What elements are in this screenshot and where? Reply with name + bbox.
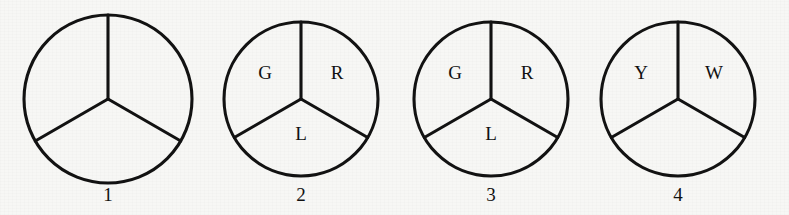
sector-label-upper-right-4: W <box>705 62 723 83</box>
circle-caption-3: 3 <box>486 184 496 205</box>
circle-group-1: 1 <box>24 15 192 205</box>
sector-label-bottom-3: L <box>485 123 497 144</box>
circle-group-2: G R L 2 <box>224 22 378 205</box>
circle-group-3: G R L 3 <box>414 22 568 205</box>
sector-label-upper-left-3: G <box>448 62 462 83</box>
spoke-down-right-4 <box>678 99 745 138</box>
figure-container: 1 G R L 2 G R L 3 <box>0 0 789 215</box>
circle-group-4: Y W 4 <box>601 22 755 205</box>
spoke-down-left-2 <box>234 99 301 138</box>
sector-label-bottom-2: L <box>295 123 307 144</box>
sector-label-upper-left-4: Y <box>634 62 648 83</box>
spoke-down-left-3 <box>424 99 491 138</box>
sector-label-upper-left-2: G <box>258 62 272 83</box>
spoke-down-left-4 <box>611 99 678 138</box>
sector-label-upper-right-2: R <box>331 62 344 83</box>
circle-caption-2: 2 <box>296 184 306 205</box>
sector-label-upper-right-3: R <box>521 62 534 83</box>
spoke-down-right-1 <box>108 99 181 141</box>
three-sector-circles-diagram: 1 G R L 2 G R L 3 <box>0 0 789 215</box>
spoke-down-right-2 <box>301 99 368 138</box>
circle-caption-1: 1 <box>103 184 113 205</box>
spoke-down-right-3 <box>491 99 558 138</box>
circle-caption-4: 4 <box>673 184 683 205</box>
spoke-down-left-1 <box>35 99 108 141</box>
